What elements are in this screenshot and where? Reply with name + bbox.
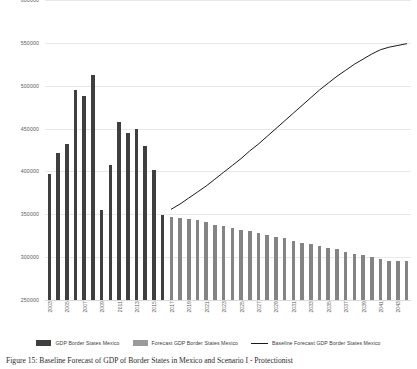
legend-line-swatch-icon xyxy=(251,340,268,346)
x-axis-tick-label: 2033 xyxy=(308,301,314,313)
y-axis-tick-label: 600000 xyxy=(21,0,39,3)
legend-item[interactable]: GDP Border States Mexico xyxy=(36,340,119,346)
x-axis-tick-label: 2003 xyxy=(47,301,53,313)
x-axis-tick-label: 2007 xyxy=(82,301,88,313)
figure-container: 6000005500005000004500004000003500003000… xyxy=(0,0,417,369)
x-axis-tick-label: 2037 xyxy=(343,301,349,313)
x-axis-tick-label: 2011 xyxy=(117,301,123,312)
legend-label: GDP Border States Mexico xyxy=(55,340,119,346)
x-axis-tick-label: 2039 xyxy=(361,301,367,313)
legend-label: Baseline Forecast GDP Border States Mexi… xyxy=(272,340,381,346)
y-axis-tick-label: 250000 xyxy=(21,297,39,303)
legend-bar-swatch-icon xyxy=(36,340,51,346)
figure-caption: Figure 15: Baseline Forecast of GDP of B… xyxy=(6,356,411,369)
x-axis-tick-label: 2009 xyxy=(99,301,105,313)
x-axis-tick-label: 2035 xyxy=(326,301,332,313)
x-axis-tick-label: 2025 xyxy=(239,301,245,313)
chart-plot-area: 6000005500005000004500004000003500003000… xyxy=(0,0,417,300)
x-axis-tick-label: 2041 xyxy=(378,301,384,313)
x-axis-tick-label: 2043 xyxy=(395,301,401,313)
y-axis: 6000005500005000004500004000003500003000… xyxy=(0,0,45,300)
y-axis-tick-label: 300000 xyxy=(21,254,39,260)
y-axis-tick-label: 550000 xyxy=(21,40,39,46)
x-axis-tick-label: 2019 xyxy=(186,301,192,313)
legend-item[interactable]: Baseline Forecast GDP Border States Mexi… xyxy=(251,340,381,346)
legend-bar-swatch-icon xyxy=(133,340,148,346)
x-axis-tick-label: 2005 xyxy=(64,301,70,313)
legend-item[interactable]: Forecast GDP Border States Mexico xyxy=(133,340,238,346)
x-axis-tick-label: 2023 xyxy=(221,301,227,313)
x-axis-tick-label: 2013 xyxy=(134,301,140,313)
y-axis-tick-label: 500000 xyxy=(21,83,39,89)
baseline-forecast-line-path xyxy=(171,44,406,209)
x-axis-tick-label: 2015 xyxy=(151,301,157,313)
x-axis-tick-label: 2031 xyxy=(291,301,297,313)
x-axis-tick-label: 2027 xyxy=(256,301,262,313)
legend-label: Forecast GDP Border States Mexico xyxy=(152,340,238,346)
y-axis-tick-label: 350000 xyxy=(21,211,39,217)
y-axis-tick-label: 400000 xyxy=(21,168,39,174)
x-axis-tick-label: 2017 xyxy=(169,301,175,313)
x-axis: 2003200520072009201120132015201720192021… xyxy=(45,301,411,331)
y-axis-tick-label: 450000 xyxy=(21,126,39,132)
chart-canvas xyxy=(45,0,411,300)
line-series-baseline-forecast xyxy=(45,0,411,300)
chart-legend: GDP Border States MexicoForecast GDP Bor… xyxy=(0,336,417,350)
x-axis-tick-label: 2029 xyxy=(273,301,279,313)
x-axis-tick-label: 2021 xyxy=(204,301,210,313)
